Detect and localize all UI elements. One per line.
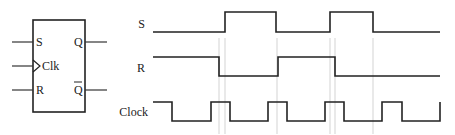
sr-flipflop-diagram: S Clk R Q Q S R Clock	[0, 0, 455, 135]
waveform-r	[153, 57, 440, 76]
pin-label-s: S	[36, 35, 43, 49]
pin-label-clk: Clk	[42, 59, 59, 73]
signal-label-r: R	[137, 61, 145, 75]
signal-label-s: S	[138, 17, 145, 31]
waveform-s	[153, 12, 440, 32]
pin-label-q: Q	[74, 35, 83, 49]
signal-label-clock: Clock	[119, 105, 148, 119]
flipflop-symbol: S Clk R Q Q	[12, 20, 107, 112]
timing-guides	[219, 38, 373, 134]
waveform-clock	[153, 102, 440, 121]
pin-label-qbar: Q	[74, 83, 83, 97]
pin-label-r: R	[36, 83, 44, 97]
